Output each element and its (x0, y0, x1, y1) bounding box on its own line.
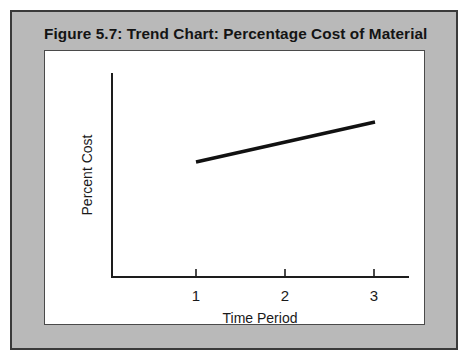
x-tick-label-3: 3 (370, 287, 378, 304)
figure-caption: Figure 5.7: Trend Chart: Percentage Cost… (44, 25, 434, 43)
trend-line-series-percent-cost (196, 122, 375, 162)
trend-chart-svg: 1 2 3 Time Period Percent Cost (45, 51, 424, 324)
x-axis-title: Time Period (223, 310, 298, 324)
y-axis-title: Percent Cost (79, 134, 95, 215)
chart-panel: 1 2 3 Time Period Percent Cost (44, 50, 425, 325)
x-tick-label-1: 1 (192, 287, 200, 304)
x-tick-label-2: 2 (281, 287, 289, 304)
figure-frame: Figure 5.7: Trend Chart: Percentage Cost… (10, 10, 458, 350)
